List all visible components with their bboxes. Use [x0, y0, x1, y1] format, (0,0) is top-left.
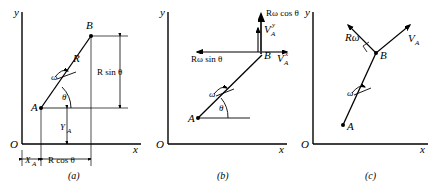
panel-c-va-subscript: A [414, 39, 420, 47]
panel-b-x-axis-label: x [278, 143, 284, 155]
panel-b-theta-label: θ [219, 103, 224, 113]
panel-c-caption: (c) [365, 170, 377, 182]
panel-b-point-a-label: A [187, 112, 195, 124]
panel-c-point-a-label: A [346, 120, 354, 132]
panel-c-romega-label: Rω [344, 31, 360, 43]
panel-c-point-b-label: B [380, 49, 387, 61]
panel-c-x-axis-label: x [419, 143, 425, 155]
panel-a-rcos-label: R cos θ [48, 155, 75, 165]
panel-c-omega-label: ω [347, 88, 353, 98]
figure-root: y x O A B R ω θ R sin θ Y A [0, 0, 431, 183]
panel-b-point-b-label: B [264, 49, 271, 61]
panel-b-va-x-subscript: A [283, 59, 289, 67]
panel-a-omega-tick [57, 72, 76, 79]
panel-a: y x O A B R ω θ R sin θ Y A [10, 6, 141, 182]
panel-a-y-axis-label: y [13, 6, 19, 18]
panel-a-rod-length-label: R [72, 52, 80, 64]
panel-c: y x O A B Rω V A ω (c) [301, 6, 428, 182]
panel-a-omega-label: ω [51, 72, 57, 82]
panel-c-origin-label: O [301, 138, 309, 150]
panel-b-rod-ab [198, 55, 262, 118]
panel-c-y-axis-label: y [304, 6, 310, 18]
panel-b-y-axis-label: y [159, 6, 165, 18]
panel-b-rw-cos-label: Rω cos θ [266, 8, 299, 18]
panel-b-rw-sin-label: Rω sin θ [191, 54, 222, 64]
panel-a-caption: (a) [68, 170, 80, 182]
panel-a-point-a-label: A [30, 101, 38, 113]
panel-a-origin-label: O [10, 138, 18, 150]
panel-b-caption: (b) [217, 170, 229, 182]
panel-a-ya-subscript: A [66, 127, 72, 135]
panel-b-va-y-subscript: A [270, 30, 276, 38]
panel-a-ya-label: Y [60, 122, 66, 132]
panel-b-omega-tick [216, 89, 234, 96]
panel-a-point-b-label: B [86, 19, 93, 31]
panel-a-rsin-label: R sin θ [97, 67, 122, 77]
panel-a-theta-label: θ [62, 92, 67, 102]
panel-b-origin-label: O [156, 138, 164, 150]
panel-c-va-vector [376, 25, 410, 53]
panel-c-omega-tick [354, 88, 371, 95]
panel-a-xa-subscript: A [31, 160, 37, 168]
panel-a-xa-label: X [24, 155, 31, 165]
panel-b-va-y-superscript: y [271, 21, 276, 29]
panel-b-omega-label: ω [209, 89, 215, 99]
panel-a-x-axis-label: x [132, 143, 138, 155]
panel-c-point-a-dot [341, 123, 345, 127]
panel-b-va-x-superscript: x [284, 50, 289, 58]
panel-b: y x O A B ω θ Rω cos θ V A y Rω sin θ V … [156, 6, 299, 182]
